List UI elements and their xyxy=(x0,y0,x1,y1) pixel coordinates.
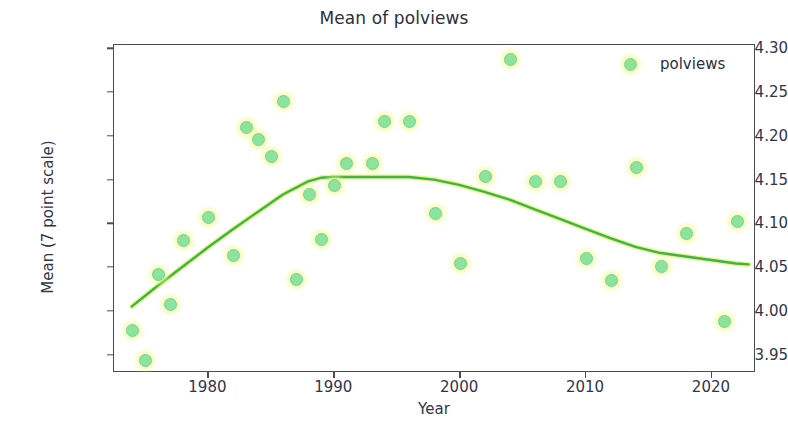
x-tick-label: 2000 xyxy=(419,378,499,396)
legend-label: polviews xyxy=(660,55,725,73)
scatter-point xyxy=(655,260,668,273)
trend-line xyxy=(132,177,749,306)
x-tick-mark xyxy=(711,372,712,378)
x-tick-mark xyxy=(585,372,586,378)
scatter-point xyxy=(454,257,467,270)
scatter-point xyxy=(680,227,693,240)
y-axis-label: Mean (7 point scale) xyxy=(39,107,57,327)
trend-line-group xyxy=(132,177,749,306)
scatter-point xyxy=(630,161,643,174)
scatter-point xyxy=(580,252,593,265)
scatter-point xyxy=(315,233,328,246)
x-tick-mark xyxy=(459,372,460,378)
scatter-point xyxy=(152,268,165,281)
x-axis-label: Year xyxy=(113,400,755,418)
scatter-point xyxy=(718,315,731,328)
chart-figure: Mean of polviews Mean (7 point scale) 3.… xyxy=(0,0,788,442)
scatter-point xyxy=(366,157,379,170)
x-tick-mark xyxy=(207,372,208,378)
legend-marker-icon xyxy=(624,58,637,71)
trend-line-glow xyxy=(132,177,749,306)
scatter-point xyxy=(290,273,303,286)
legend: polviews xyxy=(608,49,748,79)
scatter-point xyxy=(429,207,442,220)
scatter-point xyxy=(479,170,492,183)
scatter-point xyxy=(340,157,353,170)
x-tick-label: 1980 xyxy=(167,378,247,396)
scatter-point xyxy=(303,188,316,201)
scatter-point xyxy=(126,324,139,337)
scatter-point xyxy=(240,121,253,134)
x-tick-label: 2020 xyxy=(671,378,751,396)
chart-title: Mean of polviews xyxy=(0,8,788,28)
x-tick-mark xyxy=(333,372,334,378)
x-tick-label: 2010 xyxy=(545,378,625,396)
scatter-point xyxy=(605,274,618,287)
x-tick-label: 1990 xyxy=(293,378,373,396)
scatter-point xyxy=(731,215,744,228)
scatter-point xyxy=(202,211,215,224)
